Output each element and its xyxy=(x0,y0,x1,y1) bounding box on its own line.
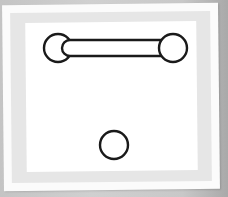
right-node-circle xyxy=(159,34,187,62)
bottom-node-circle xyxy=(100,131,128,159)
connecting-bar xyxy=(62,40,162,56)
diagram-drawing xyxy=(0,0,228,197)
